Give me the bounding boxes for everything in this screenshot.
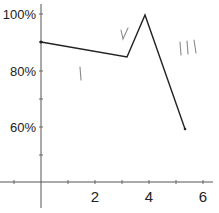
annotation-V [121,28,128,39]
y-tick-label-80: 80% [10,64,36,79]
x-tick-label-2: 2 [91,188,99,205]
x-tick-label-6: 6 [199,188,207,205]
data-point-end [184,128,187,131]
line-chart: 100% 80% 60% 2 4 6 [0,0,219,213]
annotation-III [180,40,196,55]
y-tick-label-100: 100% [3,7,37,22]
x-tick-label-4: 4 [145,188,153,205]
annotation-I [80,67,81,80]
y-tick-label-60: 60% [10,120,36,135]
data-point-start [39,40,42,43]
data-line [41,15,185,129]
